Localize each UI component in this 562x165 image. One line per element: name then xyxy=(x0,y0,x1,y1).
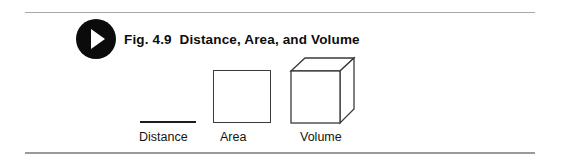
divider-bottom xyxy=(25,152,535,154)
line-segment-icon xyxy=(140,121,196,123)
cube-front-face xyxy=(291,71,340,123)
cube-icon xyxy=(286,53,362,127)
square-icon xyxy=(213,70,271,123)
shape-label-volume: Volume xyxy=(300,130,342,144)
figure-panel: Fig. 4.9 Distance, Area, and Volume Dist… xyxy=(0,0,562,165)
diagram-canvas: Distance Area Volume xyxy=(0,0,562,165)
shape-label-area: Area xyxy=(220,130,246,144)
shape-label-distance: Distance xyxy=(139,130,188,144)
